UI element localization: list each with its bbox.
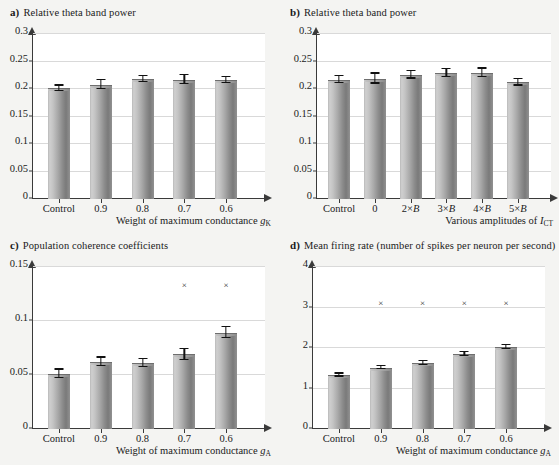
significance-marker: × — [378, 298, 383, 307]
panel-b: b)Relative theta band power 00.050.10.15… — [280, 0, 559, 232]
error-bar-cap-top — [96, 356, 105, 357]
y-axis-tick-mark — [309, 387, 313, 388]
error-bar-cap-top — [334, 372, 343, 373]
bar — [328, 80, 350, 199]
gridline — [33, 320, 265, 321]
gridline — [33, 33, 265, 34]
y-axis-tick-mark — [309, 306, 313, 307]
error-bar-cap-top — [96, 79, 105, 80]
x-axis-arrow-icon — [264, 194, 272, 202]
error-bar-cap-top — [478, 67, 487, 68]
y-axis-tick-label: 0 — [23, 420, 28, 431]
y-axis-tick-label: 0.3 — [299, 25, 312, 36]
error-bar-cap-bottom — [513, 84, 522, 85]
bar — [412, 363, 434, 429]
y-axis-tick-label: 0.05 — [10, 366, 28, 377]
x-axis-tick-label: Control — [43, 433, 75, 444]
y-axis-tick-mark — [313, 60, 317, 61]
error-bar-cap-bottom — [418, 364, 427, 365]
y-axis-tick-label: 0.25 — [10, 52, 28, 63]
x-axis-tick-label: 0 — [372, 203, 377, 214]
panel-c-title-text: Population coherence coefficients — [23, 240, 168, 251]
panel-a-label: a) — [10, 6, 19, 18]
x-axis-tick-label: 2×B — [402, 203, 420, 214]
panel-a-title-text: Relative theta band power — [23, 7, 135, 18]
y-axis-tick-mark — [309, 266, 313, 267]
x-axis-tick-label: Control — [323, 433, 355, 444]
bar — [215, 80, 237, 199]
error-bar-cap-bottom — [180, 83, 189, 84]
error-bar-cap-top — [222, 76, 231, 77]
error-bar-cap-top — [418, 360, 427, 361]
x-axis-tick-label: Control — [323, 203, 355, 214]
error-bar-cap-top — [513, 78, 522, 79]
bar — [215, 333, 237, 429]
y-axis-tick-label: 0.15 — [294, 107, 312, 118]
y-axis-tick-mark — [313, 143, 317, 144]
panel-b-title-text: Relative theta band power — [304, 7, 416, 18]
y-axis-tick-label: 2 — [303, 339, 308, 350]
bar — [48, 88, 70, 199]
y-axis-tick-label: 0.05 — [294, 162, 312, 173]
y-axis-tick-mark — [313, 88, 317, 89]
gridline — [317, 33, 551, 34]
y-axis-tick-label: 4 — [303, 258, 308, 269]
error-bar-cap-bottom — [334, 375, 343, 376]
y-axis-tick-mark — [29, 320, 33, 321]
y-axis-tick-mark — [309, 347, 313, 348]
y-axis-tick-mark — [29, 266, 33, 267]
y-axis-tick-label: 0 — [303, 420, 308, 431]
significance-marker: × — [462, 298, 467, 307]
x-axis-tick-label: 0.9 — [374, 433, 387, 444]
y-axis-tick-mark — [29, 115, 33, 116]
y-axis-tick-label: 0.05 — [10, 162, 28, 173]
y-axis-tick-mark — [29, 88, 33, 89]
bar — [471, 73, 493, 199]
bar — [132, 363, 154, 429]
x-axis-tick-label: 5×B — [509, 203, 527, 214]
error-bar-cap-top — [442, 68, 451, 69]
bar — [400, 75, 422, 199]
x-axis-tick-label: 0.8 — [136, 433, 149, 444]
y-axis-tick-label: 0.15 — [10, 107, 28, 118]
error-bar-cap-top — [180, 348, 189, 349]
error-bar-cap-top — [180, 74, 189, 75]
panel-b-plot-area: 00.050.10.150.20.250.3Control02×B3×B4×B5… — [316, 34, 551, 199]
panel-c-plot-area: 00.050.10.15Control0.90.80.70.6×× — [32, 267, 265, 429]
error-bar-cap-bottom — [478, 76, 487, 77]
error-bar-cap-top — [54, 368, 63, 369]
y-axis-tick-mark — [313, 198, 317, 199]
error-bar-cap-bottom — [370, 82, 379, 83]
x-axis-tick-label: 0.8 — [136, 203, 149, 214]
bar — [90, 362, 112, 429]
y-axis-tick-label: 0.1 — [299, 135, 312, 146]
gridline — [33, 61, 265, 62]
panel-c-xlabel: Weight of maximum conductance gA — [116, 445, 271, 456]
y-axis-tick-mark — [29, 374, 33, 375]
significance-marker: × — [224, 280, 229, 289]
x-axis-tick-label: 0.6 — [220, 433, 233, 444]
y-axis-tick-label: 0.2 — [15, 80, 28, 91]
panel-a-title: a)Relative theta band power — [10, 6, 136, 18]
y-axis-tick-mark — [313, 170, 317, 171]
error-bar-cap-top — [370, 72, 379, 73]
y-axis-tick-label: 0.25 — [294, 52, 312, 63]
bar — [173, 80, 195, 199]
bar — [132, 79, 154, 199]
error-bar-cap-bottom — [96, 365, 105, 366]
significance-marker: × — [504, 298, 509, 307]
y-axis-tick-label: 1 — [303, 379, 308, 390]
panel-d: d)Mean firing rate (number of spikes per… — [280, 233, 559, 465]
panel-a: a)Relative theta band power 00.050.10.15… — [0, 0, 279, 232]
significance-marker: × — [182, 280, 187, 289]
error-bar-cap-bottom — [138, 81, 147, 82]
x-axis-tick-label: 0.7 — [458, 433, 471, 444]
y-axis-tick-mark — [29, 170, 33, 171]
y-axis-tick-mark — [29, 428, 33, 429]
panel-b-xlabel: Various amplitudes of ICT — [445, 215, 553, 226]
y-axis-tick-label: 0 — [23, 190, 28, 201]
bar — [364, 79, 386, 199]
error-bar-cap-bottom — [442, 76, 451, 77]
error-bar-cap-bottom — [502, 348, 511, 349]
error-bar-cap-bottom — [54, 377, 63, 378]
